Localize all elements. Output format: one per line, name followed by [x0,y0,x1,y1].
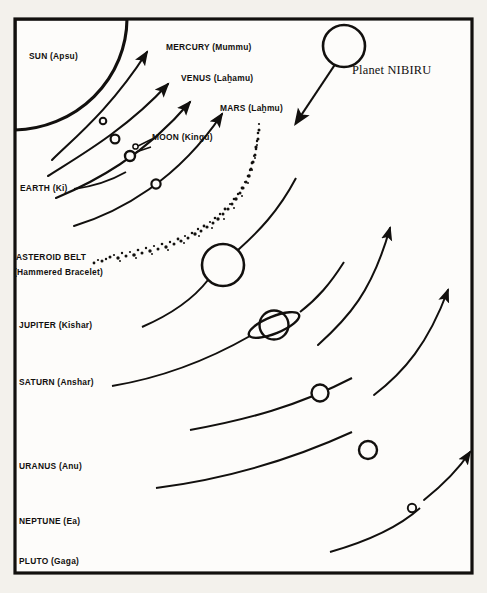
label-uranus: URANUS (Anu) [19,462,82,470]
label-mercury: MERCURY (Mummu) [166,43,252,51]
planet-body-nibiru [323,25,365,67]
planet-body-moon [133,144,138,149]
planet-body-jupiter [202,244,244,286]
planet-body-mercury [100,118,107,125]
label-saturn: SATURN (Anshar) [19,378,94,386]
label-moon: MOON (Kingu) [152,133,213,141]
label-pluto: PLUTO (Gaga) [19,557,79,565]
label-earth: EARTH (Ki) [20,184,68,192]
solar-system-drawing [0,0,487,593]
planet-body-saturn-marker [312,385,329,402]
label-venus: VENUS (Laḫamu) [181,74,253,82]
label-asteroid-belt-sub: (Hammered Bracelet) [14,268,103,276]
planet-body-mars [151,179,160,188]
label-neptune: NEPTUNE (Ea) [19,517,80,525]
planet-body-neptune [408,504,416,512]
planet-body-earth [125,151,135,161]
label-jupiter: JUPITER (Kishar) [19,321,92,329]
label-mars: MARS (Laḫmu) [220,104,283,112]
label-sun: SUN (Apsu) [29,52,78,60]
planet-body-venus [111,135,120,144]
planet-body-uranus [359,441,377,459]
label-asteroid-belt: ASTEROID BELT [16,253,86,261]
label-nibiru: Planet NIBIRU [352,64,431,76]
diagram-canvas: SUN (Apsu) MERCURY (Mummu) VENUS (Laḫamu… [0,0,487,593]
